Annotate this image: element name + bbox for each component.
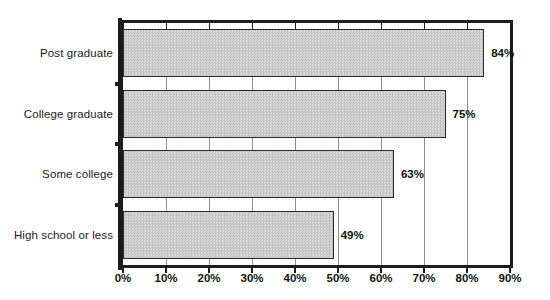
axis-tick xyxy=(510,23,511,32)
bar xyxy=(123,150,394,198)
category-label: Some college xyxy=(42,168,120,180)
bar xyxy=(123,29,484,77)
value-axis-tick-label: 60% xyxy=(369,272,392,284)
value-axis-tick-label: 40% xyxy=(283,272,306,284)
value-axis-tick-label: 10% xyxy=(154,272,177,284)
bar-value-label: 63% xyxy=(401,168,424,180)
value-axis-tick-label: 0% xyxy=(115,272,132,284)
category-label: High school or less xyxy=(14,229,120,241)
bar-chart: Post graduateCollege graduateSome colleg… xyxy=(0,0,550,300)
category-axis-tick xyxy=(115,142,123,146)
value-axis-tick-label: 50% xyxy=(326,272,349,284)
value-axis-tick-labels: 0%10%20%30%40%50%60%70%80%90% xyxy=(120,272,513,296)
plot-area xyxy=(120,20,513,268)
bar-value-label: 84% xyxy=(491,47,514,59)
bar-value-label: 49% xyxy=(341,229,364,241)
category-label: Post graduate xyxy=(40,47,120,59)
category-axis-tick xyxy=(115,203,123,207)
category-axis-labels: Post graduateCollege graduateSome colleg… xyxy=(0,0,120,300)
value-axis-tick-label: 90% xyxy=(498,272,521,284)
category-label: College graduate xyxy=(24,108,120,120)
bar xyxy=(123,211,334,259)
value-axis-tick-label: 80% xyxy=(455,272,478,284)
bar-value-label: 75% xyxy=(453,108,476,120)
category-axis-tick xyxy=(115,82,123,86)
value-axis-tick-label: 20% xyxy=(197,272,220,284)
value-axis-tick-label: 30% xyxy=(240,272,263,284)
bar xyxy=(123,90,446,138)
value-axis-tick-label: 70% xyxy=(412,272,435,284)
